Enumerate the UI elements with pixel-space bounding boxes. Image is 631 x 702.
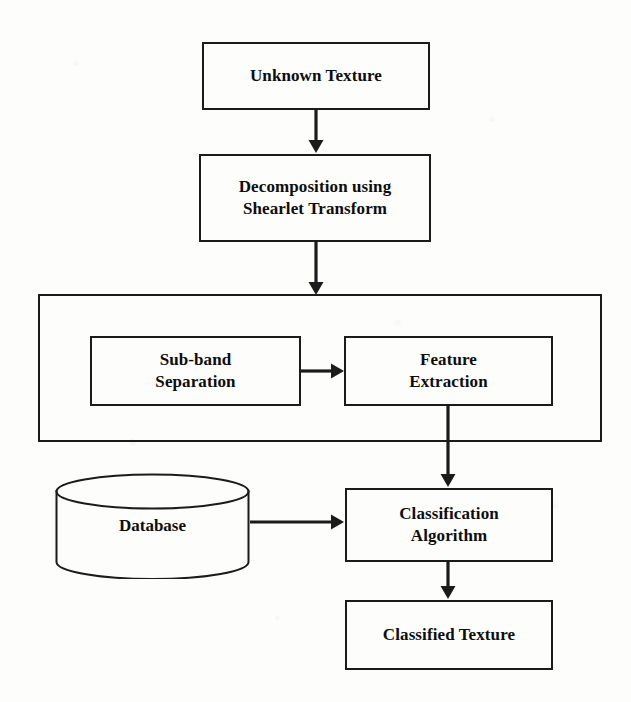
arrowhead-icon [331, 515, 344, 530]
node-label-line: Sub-band [149, 349, 241, 371]
node-label-decomposition: Decomposition usingShearlet Transform [233, 176, 398, 220]
node-label-line: Decomposition using [233, 176, 398, 198]
node-label-line: Extraction [403, 371, 493, 393]
arrowhead-icon [441, 474, 456, 487]
node-label-line: Classified Texture [377, 624, 521, 646]
arrowhead-icon [441, 586, 456, 599]
node-database: Database [55, 473, 250, 579]
arrowhead-icon [309, 140, 324, 153]
connector-database-to-classification [236, 508, 358, 536]
node-label-database: Database [119, 516, 186, 536]
node-label-line: Classification [393, 503, 505, 525]
node-label-unknown-texture: Unknown Texture [244, 65, 388, 87]
arrowhead-icon [309, 282, 324, 295]
connector-unknown-to-decomposition [302, 96, 330, 167]
node-label-feature-extraction: FeatureExtraction [403, 349, 493, 393]
node-label-line: Algorithm [393, 525, 505, 547]
node-label-classification-algorithm: ClassificationAlgorithm [393, 503, 505, 547]
node-label-sub-band-separation: Sub-bandSeparation [149, 349, 241, 393]
connector-classification-to-classified [434, 548, 462, 613]
node-sub-band-separation: Sub-bandSeparation [90, 336, 301, 406]
node-label-classified-texture: Classified Texture [377, 624, 521, 646]
connector-feature-to-classification [434, 392, 462, 501]
node-label-line: Shearlet Transform [233, 198, 398, 220]
node-label-line: Feature [403, 349, 493, 371]
node-label-line: Unknown Texture [244, 65, 388, 87]
flowchart-canvas: Unknown TextureDecomposition usingShearl… [0, 0, 631, 702]
node-label-line: Separation [149, 371, 241, 393]
connector-subband-to-feature [287, 357, 358, 385]
arrowhead-icon [331, 364, 344, 379]
connector-decomposition-to-group [302, 228, 330, 309]
